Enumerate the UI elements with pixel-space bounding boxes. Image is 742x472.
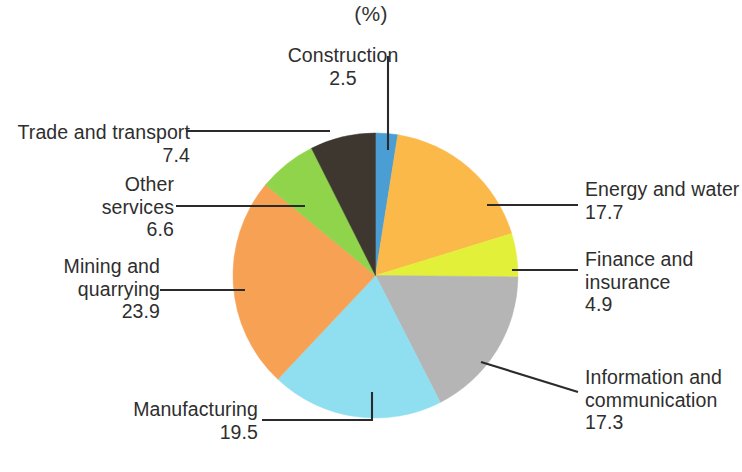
pie-label-mining-value: 23.9: [0, 300, 160, 323]
leader-line-infocom: [481, 362, 578, 392]
pie-label-manufacturing-value: 19.5: [0, 421, 258, 444]
pie-label-trade-name: Trade and transport: [18, 121, 190, 143]
pie-label-construction: Construction 2.5: [238, 44, 448, 89]
pie-label-energy-value: 17.7: [585, 201, 742, 224]
pie-label-mining-name-1: Mining and: [64, 255, 160, 277]
pie-label-infocom-name-2: communication: [585, 389, 742, 412]
pie-slice-group: [233, 133, 518, 418]
pie-chart-figure: (%) Construction 2.5 Trade and transport…: [0, 0, 742, 472]
pie-label-trade-value: 7.4: [0, 144, 190, 167]
pie-label-energy-and-water: Energy and water 17.7: [585, 178, 742, 223]
pie-label-finance-name-2: insurance: [585, 271, 742, 294]
pie-label-finance-value: 4.9: [585, 293, 742, 316]
pie-label-mining-and-quarrying: Mining and quarrying 23.9: [0, 255, 160, 323]
pie-label-manufacturing-name: Manufacturing: [133, 398, 258, 420]
pie-label-manufacturing: Manufacturing 19.5: [0, 398, 258, 443]
pie-label-information-and-communication: Information and communication 17.3: [585, 366, 742, 434]
pie-label-finance-and-insurance: Finance and insurance 4.9: [585, 248, 742, 316]
pie-label-finance-name-1: Finance and: [585, 248, 693, 270]
pie-label-trade-and-transport: Trade and transport 7.4: [0, 121, 190, 166]
pie-label-other-services-value: 6.6: [0, 218, 174, 241]
pie-label-construction-name: Construction: [288, 44, 399, 66]
pie-label-energy-name: Energy and water: [585, 178, 739, 200]
pie-label-construction-value: 2.5: [238, 67, 448, 90]
pie-label-other-services: Other services 6.6: [0, 173, 174, 241]
pie-label-infocom-value: 17.3: [585, 411, 742, 434]
pie-label-infocom-name-1: Information and: [585, 366, 722, 388]
pie-label-mining-name-2: quarrying: [0, 278, 160, 301]
pie-label-other-services-name-1: Other: [125, 173, 174, 195]
pie-label-other-services-name-2: services: [0, 196, 174, 219]
